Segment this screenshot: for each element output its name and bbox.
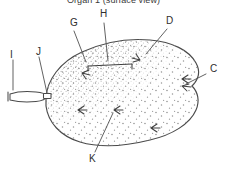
label-i: I xyxy=(10,50,13,60)
leader-line-j xyxy=(39,57,47,93)
label-c: C xyxy=(210,64,217,74)
label-k: K xyxy=(89,154,96,164)
organ-body xyxy=(40,34,210,152)
label-g: G xyxy=(70,18,78,28)
label-j: J xyxy=(36,47,41,57)
label-d: D xyxy=(166,16,173,26)
surface-stippling xyxy=(40,34,210,152)
label-h: H xyxy=(100,9,107,19)
stalk-junction xyxy=(44,94,52,99)
organ-diagram-figure: Organ 1 (surface view) xyxy=(0,0,227,175)
organ-drawing-svg xyxy=(0,0,227,175)
organ-stalk xyxy=(8,92,51,102)
